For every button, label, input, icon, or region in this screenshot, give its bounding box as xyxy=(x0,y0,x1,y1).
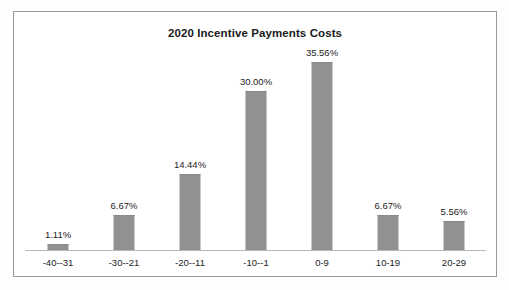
axis-tick-label: 20-29 xyxy=(421,257,487,268)
axis-tick-label: 10-19 xyxy=(355,257,421,268)
bar-rect[interactable] xyxy=(246,91,267,250)
bar-value-label: 14.44% xyxy=(174,159,206,170)
bar-value-label: 35.56% xyxy=(306,47,338,58)
bar-slot: 5.56% xyxy=(421,49,487,250)
bar-column[interactable]: 30.00% xyxy=(246,91,267,250)
bar-value-label: 30.00% xyxy=(240,76,272,87)
bar-value-label: 5.56% xyxy=(441,206,468,217)
bar-rect[interactable] xyxy=(180,174,201,250)
axis-tick-label: -20--11 xyxy=(157,257,223,268)
plot-area: 1.11% 6.67% 14.44% 30.00% 35.56% xyxy=(25,49,486,250)
axis-tick-label: 0-9 xyxy=(289,257,355,268)
bar-rect[interactable] xyxy=(378,215,399,250)
bar-rect[interactable] xyxy=(114,215,135,250)
bar-slot: 30.00% xyxy=(223,49,289,250)
chart-frame: 2020 Incentive Payments Costs 1.11% 6.67… xyxy=(13,11,497,277)
bar-slot: 6.67% xyxy=(355,49,421,250)
category-axis-labels: -40--31 -30--21 -20--11 -10--1 0-9 10-19… xyxy=(25,257,486,275)
bar-slot: 35.56% xyxy=(289,49,355,250)
category-axis-line xyxy=(25,250,486,251)
bar-value-label: 1.11% xyxy=(45,229,71,240)
bar-column[interactable]: 6.67% xyxy=(114,215,135,250)
chart-title: 2020 Incentive Payments Costs xyxy=(14,27,496,39)
bar-slot: 1.11% xyxy=(25,49,91,250)
bar-column[interactable]: 14.44% xyxy=(180,174,201,250)
bar-value-label: 6.67% xyxy=(375,200,402,211)
bar-rect[interactable] xyxy=(312,62,333,250)
bar-slot: 6.67% xyxy=(91,49,157,250)
bar-column[interactable]: 35.56% xyxy=(312,62,333,250)
bar-slot: 14.44% xyxy=(157,49,223,250)
bar-column[interactable]: 5.56% xyxy=(444,221,465,250)
axis-tick-label: -10--1 xyxy=(223,257,289,268)
bar-column[interactable]: 6.67% xyxy=(378,215,399,250)
bar-value-label: 6.67% xyxy=(111,200,138,211)
bar-rect[interactable] xyxy=(444,221,465,250)
axis-tick-label: -40--31 xyxy=(25,257,91,268)
axis-tick-label: -30--21 xyxy=(91,257,157,268)
